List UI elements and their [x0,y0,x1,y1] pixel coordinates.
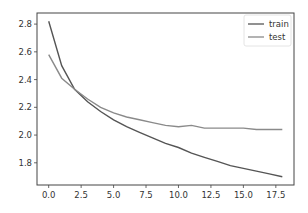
x-tick-label: 2.5 [74,190,88,200]
x-tick-label: 0.0 [42,190,56,200]
y-tick-label: 2.8 [18,19,32,29]
y-tick-label: 2.4 [18,75,32,85]
y-tick-label: 2.0 [18,130,32,140]
y-tick-label: 2.2 [18,102,32,112]
x-tick-label: 5.0 [107,190,121,200]
x-tick-label: 12.5 [201,190,220,200]
y-axis-ticks: 1.82.02.22.42.62.8 [18,19,37,168]
x-tick-label: 10.0 [169,190,188,200]
legend-train-label: train [269,19,289,29]
y-tick-label: 1.8 [18,158,32,168]
x-axis-ticks: 0.02.55.07.510.012.515.017.5 [42,185,285,200]
legend: train test [244,15,291,46]
y-tick-label: 2.6 [18,47,32,57]
line-chart: 0.02.55.07.510.012.515.017.5 1.82.02.22.… [0,0,308,213]
x-tick-label: 7.5 [139,190,153,200]
x-tick-label: 17.5 [266,190,285,200]
legend-test-label: test [269,32,286,42]
series-test-line [49,55,283,130]
x-tick-label: 15.0 [234,190,253,200]
